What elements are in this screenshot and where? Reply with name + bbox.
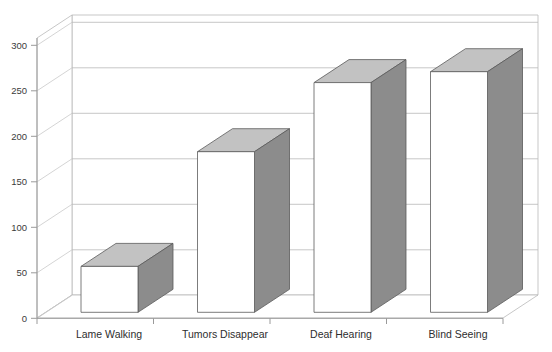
bar-blind-seeing[interactable] [431,49,523,313]
category-label-deaf-hearing: Deaf Hearing [310,328,372,340]
category-axis [37,318,503,324]
bar-front-face [314,83,371,313]
bar-front-face [431,72,488,313]
category-label-lame-walking: Lame Walking [76,328,142,340]
ytick-label-50: 50 [16,267,27,278]
bar-side-face [255,129,290,313]
category-label-blind-seeing: Blind Seeing [429,328,488,340]
category-labels: Lame Walking Tumors Disappear Deaf Heari… [76,328,488,340]
chart-canvas: 0 50 100 150 200 250 300 [0,0,552,352]
bar-front-face [81,266,138,312]
value-axis-tick-labels: 0 50 100 150 200 250 300 [11,40,27,324]
bar-chart-3d: 0 50 100 150 200 250 300 [0,0,552,352]
ytick-label-300: 300 [11,40,27,51]
bar-side-face [488,49,523,313]
category-axis-ticks [37,318,503,324]
value-axis-ticks [31,45,37,318]
category-label-tumors-disappear: Tumors Disappear [182,328,268,340]
left-wall [37,15,72,318]
ytick-label-200: 200 [11,131,27,142]
bar-side-face [371,60,406,313]
ytick-label-250: 250 [11,85,27,96]
ytick-label-100: 100 [11,222,27,233]
bar-front-face [198,152,255,313]
ytick-label-150: 150 [11,176,27,187]
bar-deaf-hearing[interactable] [314,60,406,313]
bar-tumors-disappear[interactable] [198,129,290,313]
value-axis: 0 50 100 150 200 250 300 [11,38,37,324]
ytick-label-0: 0 [22,313,27,324]
